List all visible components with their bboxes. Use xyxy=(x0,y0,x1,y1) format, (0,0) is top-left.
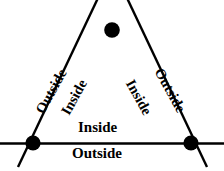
bottom-right-vertex-dot xyxy=(183,135,198,150)
bottom-edge-outside-label: Outside xyxy=(72,146,122,161)
bottom-edge-inside-label: Inside xyxy=(78,120,117,135)
apex-vertex-dot xyxy=(104,22,120,38)
triangle-halfplane-diagram: Inside Outside Outside Inside Outside In… xyxy=(0,0,224,171)
bottom-left-vertex-dot xyxy=(25,135,40,150)
